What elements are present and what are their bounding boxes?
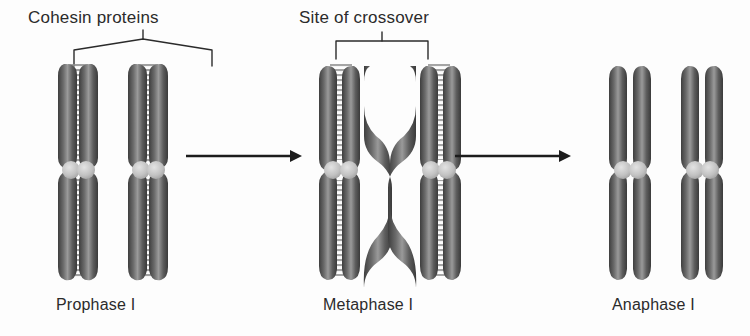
chromosome-a (609, 66, 651, 280)
centromere (422, 161, 440, 179)
chromosome-a (58, 62, 98, 280)
cohesin-proteins-label: Cohesin proteins (28, 8, 159, 28)
site-of-crossover-label: Site of crossover (299, 8, 429, 28)
centromere (701, 161, 719, 179)
arrow-prophase-to-metaphase (186, 148, 302, 164)
arrow-metaphase-to-anaphase (455, 148, 571, 164)
phase-label-prophase-1: Prophase I (56, 296, 135, 314)
centromere (629, 161, 647, 179)
chromosome-b (128, 62, 168, 280)
chiasma-strand-right (388, 66, 416, 288)
centromere (147, 161, 165, 179)
centromere (77, 161, 95, 179)
anaphase-chromosomes (598, 54, 742, 286)
chromosome-b (681, 66, 723, 280)
phase-label-anaphase-1: Anaphase I (612, 296, 695, 314)
centromere (340, 161, 358, 179)
metaphase-chromosomes (312, 54, 468, 286)
chiasma-strand-left (364, 66, 392, 288)
prophase-chromosomes (48, 54, 198, 286)
meiosis-diagram: Cohesin proteins Site of crossover (0, 0, 750, 336)
centromere (324, 161, 342, 179)
phase-label-metaphase-1: Metaphase I (323, 296, 413, 314)
centromere (438, 161, 456, 179)
